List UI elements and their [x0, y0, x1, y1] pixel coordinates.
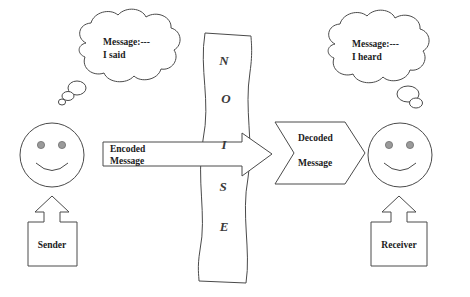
sender-smile-icon [36, 163, 68, 171]
decoded-message-arrow [275, 122, 365, 184]
sender-left-eye-icon [37, 141, 44, 148]
noise-letter-n: N [218, 53, 229, 68]
decoded-message-line2: Message [298, 158, 332, 168]
receiver-smile-icon [384, 163, 416, 171]
receiver-face-outline [368, 123, 432, 187]
decoded-message-line1: Decoded [298, 133, 334, 143]
noise-letter-s: S [219, 179, 226, 194]
sender-face-outline [20, 123, 84, 187]
diagram-canvas: Message:--- I said Message:--- I heard E… [0, 0, 470, 297]
noise-letter-e: E [219, 219, 229, 234]
sender-thought-line2: I said [103, 50, 126, 60]
receiver-thought-line2: I heard [352, 52, 383, 62]
receiver-bubble-tail-mid [410, 98, 423, 108]
sender-face [20, 123, 84, 187]
encoded-message-arrow [103, 133, 272, 176]
receiver-left-eye-icon [385, 141, 392, 148]
sender-bubble-tail-small [58, 99, 65, 105]
noise-letter-i: I [220, 137, 227, 152]
encoded-message-line1: Encoded [110, 144, 146, 154]
sender-label: Sender [38, 240, 67, 250]
noise-letter-o: O [221, 91, 231, 106]
sender-right-eye-icon [58, 141, 65, 148]
receiver-box [371, 196, 427, 266]
receiver-right-eye-icon [406, 141, 413, 148]
sender-box [28, 196, 77, 266]
receiver-label: Receiver [381, 240, 417, 250]
encoded-message-line2: Message [110, 156, 144, 166]
communication-model-diagram: Message:--- I said Message:--- I heard E… [0, 0, 470, 297]
receiver-face [368, 123, 432, 187]
receiver-thought-line1: Message:--- [352, 39, 399, 49]
sender-thought-line1: Message:--- [103, 37, 150, 47]
